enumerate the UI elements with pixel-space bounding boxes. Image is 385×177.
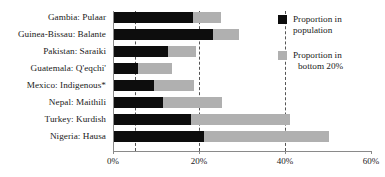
bar-segment-population xyxy=(114,80,154,91)
legend-item-population: Proportion in population xyxy=(278,14,342,35)
x-axis-tick-0 xyxy=(113,151,114,154)
x-axis-line xyxy=(113,151,371,152)
category-label-nepal: Nepal: Maithili xyxy=(0,97,106,107)
bar-segment-population xyxy=(114,29,213,40)
legend-label-bottom20-line2: bottom 20% xyxy=(293,61,343,72)
legend-label-population-line2: population xyxy=(293,25,342,36)
category-label-nigeria: Nigeria: Hausa xyxy=(0,131,106,141)
legend-swatch-icon-bottom20 xyxy=(278,51,287,60)
bar-segment-population xyxy=(114,114,191,125)
category-axis-labels: Gambia: Pulaar Guinea-Bissau: Balante Pa… xyxy=(0,12,110,148)
x-axis-label-0: 0% xyxy=(107,156,119,166)
x-axis-label-20: 20% xyxy=(191,156,208,166)
category-label-guinea-bissau: Guinea-Bissau: Balante xyxy=(0,29,106,39)
stacked-bar-chart: Gambia: Pulaar Guinea-Bissau: Balante Pa… xyxy=(0,0,385,177)
x-axis-label-60: 60% xyxy=(363,156,380,166)
category-label-guatemala: Guatemala: Q'eqchi' xyxy=(0,63,106,73)
bar-segment-population xyxy=(114,97,163,108)
bar-segment-population xyxy=(114,131,204,142)
category-label-pakistan: Pakistan: Saraiki xyxy=(0,46,106,56)
legend-item-bottom20: Proportion in bottom 20% xyxy=(278,50,343,71)
x-axis-tick-20 xyxy=(199,151,200,154)
legend-label-bottom20: Proportion in bottom 20% xyxy=(293,50,343,71)
bar-segment-population xyxy=(114,46,168,57)
bar-segment-population xyxy=(114,12,193,23)
category-label-mexico: Mexico: Indigenous* xyxy=(0,80,106,90)
x-axis-label-40: 40% xyxy=(277,156,294,166)
legend-swatch-icon-population xyxy=(278,15,287,24)
category-label-gambia: Gambia: Pulaar xyxy=(0,12,106,22)
legend-label-population: Proportion in population xyxy=(293,14,342,35)
category-label-turkey: Turkey: Kurdish xyxy=(0,114,106,124)
legend-label-population-line1: Proportion in xyxy=(293,14,342,24)
legend-label-bottom20-line1: Proportion in xyxy=(293,50,342,60)
x-axis-tick-60 xyxy=(371,151,372,154)
bar-segment-population xyxy=(114,63,138,74)
x-axis-tick-40 xyxy=(285,151,286,154)
